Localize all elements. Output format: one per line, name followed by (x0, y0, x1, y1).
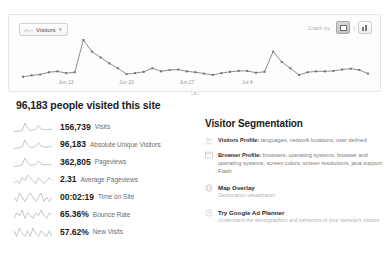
chart-data-point[interactable] (358, 69, 360, 71)
chart-data-point[interactable] (126, 73, 128, 75)
link-map-overlay[interactable]: Map Overlay Geolocation visualization (205, 184, 385, 200)
metric-label: Absolute Unique Visitors (90, 141, 161, 148)
link-subtitle: Geolocation visualization (218, 192, 275, 199)
link-subtitle: Understand the demographics and behavior… (218, 217, 380, 224)
sparkline-icon (14, 156, 52, 168)
line-chart-view-button[interactable] (336, 21, 350, 34)
metric-label: Time on Site (98, 193, 134, 200)
chart-toolbar: Visitors ▾ Graph by: | (9, 15, 380, 35)
chart-data-point[interactable] (350, 68, 352, 70)
sparkline-icon (14, 121, 52, 133)
chart-data-point[interactable] (108, 62, 110, 64)
chart-data-point[interactable] (143, 71, 145, 73)
ad-planner-icon (205, 209, 213, 217)
visitors-line-chart[interactable] (9, 35, 382, 93)
metric-value: 2.31 (60, 174, 77, 184)
sparkline-icon (24, 27, 33, 33)
chart-data-point[interactable] (246, 70, 248, 72)
metric-row[interactable]: 57.62%New Visits (14, 223, 194, 241)
sparkline-icon (14, 208, 52, 220)
page-title: 96,183 people visited this site (16, 99, 161, 111)
segmentation-item-visitors-profile[interactable]: Visitors Profile: languages, network loc… (205, 136, 385, 145)
visitor-segmentation-panel: Visitor Segmentation Visitors Profile: l… (205, 118, 385, 230)
bar-chart-view-button[interactable] (358, 21, 372, 34)
chart-data-point[interactable] (333, 70, 335, 72)
chart-data-point[interactable] (74, 71, 76, 73)
chart-data-point[interactable] (48, 71, 50, 73)
toolbar-separator: | (353, 25, 355, 31)
people-icon (205, 137, 213, 145)
chart-data-point[interactable] (186, 70, 188, 72)
chart-view-controls: Graph by: | (308, 21, 372, 34)
chart-data-point[interactable] (195, 71, 197, 73)
sparkline-icon (14, 173, 52, 185)
metrics-list: 156,739Visits96,183Absolute Unique Visit… (14, 118, 194, 241)
chart-canvas (9, 35, 382, 93)
chart-data-point[interactable] (39, 73, 41, 75)
chart-data-point[interactable] (324, 70, 326, 72)
metric-row[interactable]: 2.31Average Pageviews (14, 171, 194, 189)
chart-data-point[interactable] (315, 70, 317, 72)
chart-data-point[interactable] (367, 73, 369, 75)
chart-data-point[interactable] (31, 74, 33, 76)
metric-selector-label: Visitors (36, 27, 56, 33)
chart-data-point[interactable] (238, 70, 240, 72)
globe-icon (205, 184, 213, 192)
chart-data-point[interactable] (151, 67, 153, 69)
chart-data-point[interactable] (212, 74, 214, 76)
metric-value: 156,739 (60, 122, 91, 132)
link-google-ad-planner[interactable]: Try Google Ad Planner Understand the dem… (205, 209, 385, 225)
chart-data-point[interactable] (203, 73, 205, 75)
chart-data-point[interactable] (177, 69, 179, 71)
sparkline-icon (14, 138, 52, 150)
chart-data-point[interactable] (229, 71, 231, 73)
segmentation-title: Visitor Segmentation (205, 118, 385, 129)
metric-value: 96,183 (60, 139, 86, 149)
metric-row[interactable]: 362,805Pageviews (14, 153, 194, 171)
chart-data-point[interactable] (264, 71, 266, 73)
chart-data-point[interactable] (298, 74, 300, 76)
chart-data-point[interactable] (169, 69, 171, 71)
link-text-block: Map Overlay Geolocation visualization (218, 184, 275, 200)
graph-by-label: Graph by: (308, 25, 332, 31)
link-text-block: Try Google Ad Planner Understand the dem… (218, 209, 380, 225)
expand-panel-handle[interactable]: ▾ (190, 90, 199, 95)
chart-data-point[interactable] (100, 56, 102, 58)
chart-data-point[interactable] (57, 70, 59, 72)
metric-value: 65.36% (60, 209, 89, 219)
metric-row[interactable]: 00:02:19Time on Site (14, 188, 194, 206)
line-chart-icon (340, 25, 347, 31)
chart-data-point[interactable] (91, 51, 93, 53)
chart-data-point[interactable] (281, 61, 283, 63)
link-title: Map Overlay (218, 184, 275, 191)
chevron-down-icon: ▾ (59, 27, 62, 32)
analytics-dashboard: Visitors ▾ Graph by: | Jun 13Jun 20Jun 2… (0, 0, 389, 258)
metric-row[interactable]: 96,183Absolute Unique Visitors (14, 136, 194, 154)
chart-data-point[interactable] (341, 69, 343, 71)
chart-data-point[interactable] (160, 70, 162, 72)
metric-label: New Visits (93, 228, 123, 235)
segmentation-item-text: Visitors Profile: languages, network loc… (218, 136, 367, 144)
chart-data-point[interactable] (255, 72, 257, 74)
visitors-chart-panel: Visitors ▾ Graph by: | Jun 13Jun 20Jun 2… (8, 14, 381, 92)
chart-data-point[interactable] (134, 72, 136, 74)
metric-label: Visits (95, 123, 110, 130)
segmentation-item-title: Browser Profile: (218, 152, 261, 158)
segmentation-item-body: languages, network locations, user defin… (259, 137, 367, 143)
chart-data-point[interactable] (220, 72, 222, 74)
metric-value: 362,805 (60, 157, 91, 167)
segmentation-item-text: Browser Profile: browsers, operating sys… (218, 151, 385, 175)
chart-data-point[interactable] (117, 67, 119, 69)
metric-row[interactable]: 65.36%Bounce Rate (14, 206, 194, 224)
chart-data-point[interactable] (272, 51, 274, 53)
metric-row[interactable]: 156,739Visits (14, 118, 194, 136)
link-title: Try Google Ad Planner (218, 209, 380, 216)
segmentation-item-title: Visitors Profile: (218, 137, 259, 143)
chart-data-point[interactable] (22, 76, 24, 78)
chart-data-point[interactable] (307, 71, 309, 73)
chart-data-point[interactable] (289, 67, 291, 69)
segmentation-item-browser-profile[interactable]: Browser Profile: browsers, operating sys… (205, 151, 385, 175)
chart-data-point[interactable] (82, 39, 84, 41)
metric-label: Average Pageviews (81, 176, 138, 183)
chart-data-point[interactable] (65, 72, 67, 74)
